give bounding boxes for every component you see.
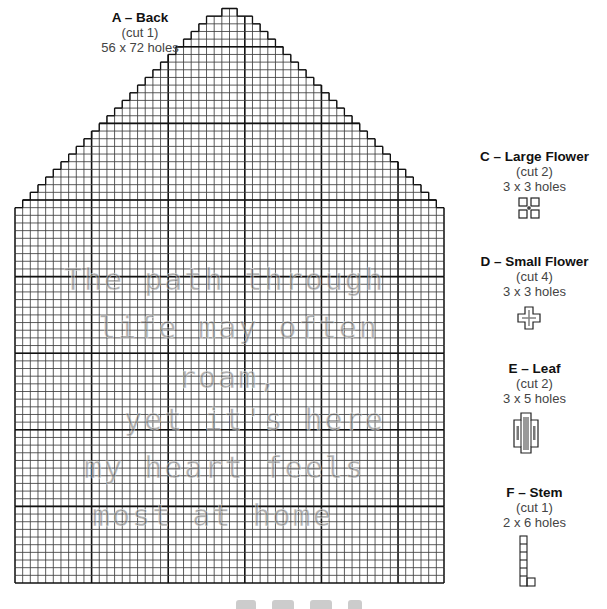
piece-f-size: 2 x 6 holes (462, 515, 607, 530)
piece-a-title: A – Back (70, 10, 210, 25)
piece-e-size: 3 x 5 holes (462, 391, 607, 406)
stitch-line-5: my heart feels (84, 450, 365, 485)
piece-d-size: 3 x 3 holes (462, 284, 607, 299)
piece-e-cut: (cut 2) (462, 376, 607, 391)
stitch-line-1: The path through (64, 262, 385, 297)
stem-icon (518, 534, 538, 588)
piece-c-label: C – Large Flower (cut 2) 3 x 3 holes (462, 149, 607, 194)
piece-a-size: 56 x 72 holes (70, 40, 210, 55)
piece-f-cut: (cut 1) (462, 500, 607, 515)
piece-c-cut: (cut 2) (462, 164, 607, 179)
stitch-line-3: roam, (178, 360, 278, 395)
cutoff-label-fragment (236, 600, 396, 609)
piece-a-cut: (cut 1) (70, 25, 210, 40)
small-flower-icon (516, 305, 542, 331)
stitch-line-4: yet it's here (124, 402, 385, 437)
stitch-line-2: life may often (98, 310, 379, 345)
leaf-icon (512, 411, 540, 455)
piece-f-title: F – Stem (462, 485, 607, 500)
piece-f-label: F – Stem (cut 1) 2 x 6 holes (462, 485, 607, 530)
large-flower-icon (517, 196, 541, 220)
piece-a-label: A – Back (cut 1) 56 x 72 holes (70, 10, 210, 55)
piece-c-size: 3 x 3 holes (462, 179, 607, 194)
piece-d-title: D – Small Flower (462, 254, 607, 269)
piece-d-label: D – Small Flower (cut 4) 3 x 3 holes (462, 254, 607, 299)
piece-c-title: C – Large Flower (462, 149, 607, 164)
piece-e-title: E – Leaf (462, 361, 607, 376)
stitch-line-6: most at home (92, 498, 333, 533)
piece-e-label: E – Leaf (cut 2) 3 x 5 holes (462, 361, 607, 406)
piece-d-cut: (cut 4) (462, 269, 607, 284)
